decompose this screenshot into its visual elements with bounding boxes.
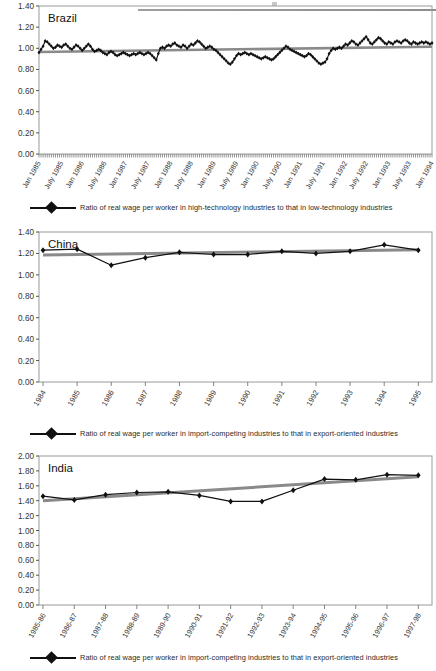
x-tick-label: 1990-91 [183,612,204,640]
x-tick-label: July 1986 [85,160,108,191]
y-tick-label: 0.40 [18,335,34,344]
x-tick-label: July 1992 [347,160,370,191]
x-tick-label: July 1989 [217,160,240,191]
y-tick-label: 1.00 [18,271,34,280]
x-tick-label: Jan 1991 [281,160,304,190]
x-tick-label: 1996-97 [370,612,391,640]
x-tick-label: 1997-98 [402,612,423,640]
data-point-marker [385,472,390,478]
plot-frame [39,6,432,154]
x-tick-label: Jan 1985 [20,160,43,190]
x-tick-label: 1985 [66,389,82,408]
chart-svg-india: 0.000.200.400.600.801.001.201.401.601.80… [0,448,436,650]
data-point-marker [109,262,114,268]
x-tick-label: 1988-89 [120,612,141,640]
y-tick-label: 1.80 [18,467,34,476]
x-tick-label: 1991 [270,389,286,408]
y-tick-label: 2.00 [18,452,34,461]
legend-label-china: Ratio of real wage per worker in import-… [76,429,398,439]
y-tick-label: 0.20 [18,586,34,595]
y-tick-label: 1.20 [18,512,34,521]
data-point-marker [197,492,202,498]
x-tick-label: 1987-88 [89,612,110,640]
chart-svg-brazil: 0.000.200.400.600.801.001.201.40BrazilJa… [0,0,436,200]
x-tick-label: July 1987 [129,160,152,191]
legend-label-india: Ratio of real wage per worker in import-… [76,653,398,663]
x-tick-label: Jan 1990 [238,160,261,190]
x-tick-label: 1991-92 [214,612,235,640]
y-tick-label: 1.20 [18,23,34,32]
diamond-line-marker-icon [30,652,76,664]
x-tick-label: 1988 [168,389,184,408]
x-tick-label: 1993 [339,389,355,408]
x-tick-label: 1994 [373,389,389,408]
y-tick-label: 1.60 [18,482,34,491]
x-tick-label: July 1991 [303,160,326,191]
y-tick-label: 0.00 [18,378,34,387]
data-point-marker [41,247,46,253]
data-point-marker [279,248,284,254]
chart-area-india: 0.000.200.400.600.801.001.201.401.601.80… [0,448,436,650]
x-tick-label: Jan 1988 [152,160,175,190]
panel-title: India [48,462,74,474]
y-tick-label: 0.40 [18,571,34,580]
data-point-marker [416,247,421,253]
legend-label-brazil: Ratio of real wage per worker in high-te… [76,203,393,213]
x-tick-label: 1990 [236,389,252,408]
x-tick-label: 1995-96 [339,612,360,640]
data-point-marker [143,255,148,261]
x-tick-label: Jan 1989 [195,160,218,190]
x-tick-label: 1993-94 [277,612,298,640]
x-tick-label: July 1988 [172,160,195,191]
x-tick-label: Jan 1992 [327,160,350,190]
data-point-marker [228,498,233,504]
x-tick-label: Jan 1986 [63,160,86,190]
diamond-line-marker-icon [30,202,76,214]
chart-panel-brazil: 0.000.200.400.600.801.001.201.40BrazilJa… [0,0,436,222]
y-tick-label: 0.40 [18,108,34,117]
legend-india: Ratio of real wage per worker in import-… [0,650,436,666]
x-tick-label: 1994-95 [308,612,329,640]
data-point-marker [382,242,387,248]
x-tick-label: 1992-93 [245,612,266,640]
y-tick-label: 1.40 [18,228,34,237]
y-tick-label: 1.00 [18,527,34,536]
x-tick-label: Jan 1993 [370,160,393,190]
y-tick-label: 0.20 [18,129,34,138]
trend-line [43,477,418,501]
chart-panel-india: 0.000.200.400.600.801.001.201.401.601.80… [0,448,436,671]
y-tick-label: 1.40 [18,2,34,11]
y-tick-label: 1.00 [18,44,34,53]
x-tick-label: Jan 1994 [413,160,436,190]
data-point-marker [260,498,265,504]
x-tick-label: 1989 [202,389,218,408]
y-tick-label: 0.00 [18,150,34,159]
panel-title: China [48,238,79,250]
y-tick-label: 1.20 [18,249,34,258]
y-tick-label: 0.60 [18,87,34,96]
x-tick-label: July 1990 [260,160,283,191]
y-tick-label: 0.80 [18,541,34,550]
y-tick-label: 1.40 [18,497,34,506]
chart-area-brazil: 0.000.200.400.600.801.001.201.40BrazilJa… [0,0,436,200]
legend-brazil: Ratio of real wage per worker in high-te… [0,200,436,216]
panel-title: Brazil [48,12,77,24]
legend-china: Ratio of real wage per worker in import-… [0,426,436,442]
chart-svg-china: 0.000.200.400.600.801.001.201.40China198… [0,222,436,426]
y-tick-label: 0.60 [18,314,34,323]
x-tick-label: July 1985 [42,160,65,191]
x-tick-label: 1995 [407,389,423,408]
y-tick-label: 0.60 [18,556,34,565]
y-tick-label: 0.80 [18,65,34,74]
y-tick-label: 0.00 [18,601,34,610]
y-tick-label: 0.20 [18,357,34,366]
x-tick-label: 1992 [304,389,320,408]
data-point-marker [322,476,327,482]
chart-area-china: 0.000.200.400.600.801.001.201.40China198… [0,222,436,426]
x-tick-label: 1989-90 [151,612,172,640]
diamond-line-marker-icon [30,428,76,440]
data-point-marker [41,493,46,499]
x-tick-label: Jan 1987 [107,160,130,190]
x-tick-label: 1986 [100,389,116,408]
x-tick-label: 1985-86 [26,612,47,640]
